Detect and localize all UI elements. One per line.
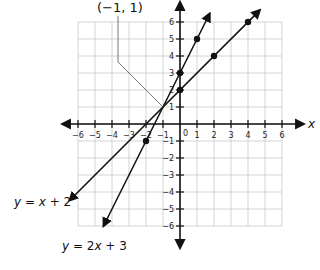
x-tick-label: 1 [194,131,199,140]
y-tick-label: −5 [162,205,174,214]
y-tick-label: −4 [162,188,174,197]
eq-part: + 2 [46,195,71,209]
eq-part: + 3 [102,239,127,253]
y-tick-label: 4 [169,52,174,61]
data-point [245,19,251,25]
y-tick-label: −2 [162,154,174,163]
y-tick-label: 6 [169,18,174,27]
y-tick-label: −3 [162,171,174,180]
labels: x 0 (−1, 1) y = 2x + 3 y = x + 2 [13,0,316,253]
annotation-label: (−1, 1) [97,0,143,15]
x-tick-label: 3 [228,131,233,140]
data-point [143,138,149,144]
equation-label-2x-plus-3: y = 2x + 3 [61,239,127,253]
chart: −6−5−4−3−2−1123456−6−5−4−3−2−1123456 x 0… [0,0,320,270]
y-tick-label: −1 [162,137,174,146]
x-tick-label: −5 [89,131,101,140]
y-tick-label: 5 [169,35,174,44]
data-point [211,53,217,59]
data-point [177,87,183,93]
x-axis-label: x [307,117,316,131]
x-tick-label: 4 [245,131,250,140]
eq-part: = 2 [69,239,94,253]
data-point [194,36,200,42]
y-tick-label: 1 [169,103,174,112]
x-tick-label: −4 [106,131,118,140]
x-tick-label: −6 [72,131,84,140]
y-tick-label: 3 [169,69,174,78]
x-tick-label: 6 [279,131,284,140]
y-tick-label: −6 [162,222,174,231]
series-line-0 [104,14,210,227]
x-tick-label: 5 [262,131,267,140]
equation-label-x-plus-2: y = x + 2 [13,195,71,209]
x-tick-label: −3 [123,131,135,140]
data-point [177,70,183,76]
eq-part: = [21,195,39,209]
annotation-leader-line [118,16,163,107]
origin-label: 0 [183,129,188,138]
x-tick-label: 2 [211,131,216,140]
